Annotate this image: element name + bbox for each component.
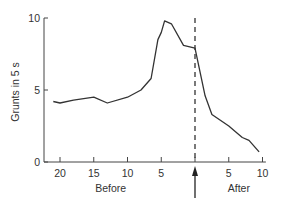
y-axis-label: Grunts in 5 s [9,62,21,122]
x-axis-label-after: After [228,182,251,194]
y-tick-label: 5 [34,84,40,96]
x-tick-label: 20 [54,167,66,179]
x-tick-label: 15 [88,167,100,179]
x-axis-label-before: Before [95,182,126,194]
data-series [53,21,259,152]
y-tick-label: 10 [28,12,40,24]
line-chart: 05102015105510 BeforeAfterGrunts in 5 s [0,0,282,201]
y-tick-label: 0 [34,156,40,168]
x-tick-label: 10 [122,167,134,179]
series-line [53,21,259,152]
event-marker [192,18,198,198]
x-tick-label: 5 [226,167,232,179]
x-tick-label: 10 [257,167,269,179]
event-arrow-head-icon [192,166,198,176]
axes: 05102015105510 [28,12,268,179]
x-tick-label: 5 [158,167,164,179]
